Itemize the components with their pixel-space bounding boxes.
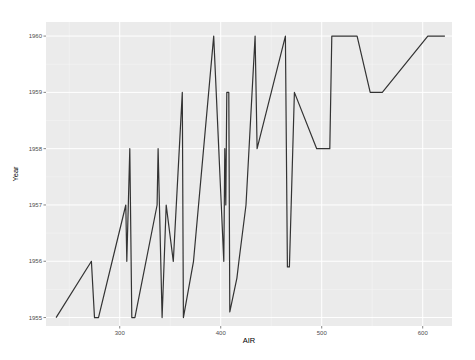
x-tick-label: 400 <box>216 330 227 336</box>
x-tick-label: 300 <box>115 330 126 336</box>
x-tick-label: 500 <box>317 330 328 336</box>
line-chart: 300400500600 195519561957195819591960 AI… <box>0 0 475 360</box>
y-tick-label: 1958 <box>29 146 43 152</box>
x-axis-ticks: 300400500600 <box>115 326 429 336</box>
x-tick-label: 600 <box>418 330 429 336</box>
y-axis-title: Year <box>11 166 20 182</box>
x-axis-title: AIR <box>243 336 256 345</box>
plot-panel <box>46 22 452 326</box>
y-tick-label: 1956 <box>29 258 43 264</box>
y-tick-label: 1960 <box>29 33 43 39</box>
y-tick-label: 1957 <box>29 202 43 208</box>
y-tick-label: 1955 <box>29 315 43 321</box>
y-tick-label: 1959 <box>29 89 43 95</box>
y-axis-ticks: 195519561957195819591960 <box>29 33 46 320</box>
